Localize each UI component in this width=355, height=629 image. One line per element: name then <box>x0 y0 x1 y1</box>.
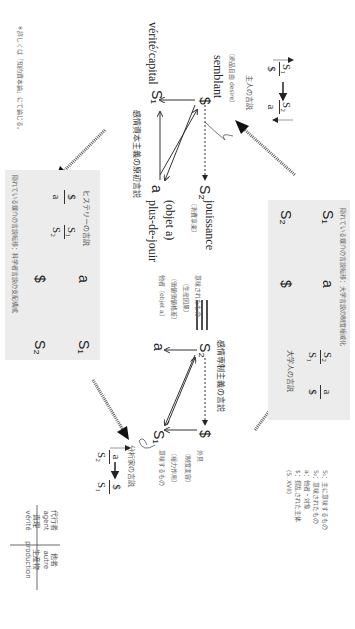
lacan-discourse-diagram: ＊詳しくは「知的資本論」にて論じる。 S₁$ S₂a 主人の言説 semblan… <box>0 0 355 629</box>
hysteric-schema-a: a <box>76 275 92 283</box>
agent-jp: 代行者 <box>50 510 58 531</box>
verite-capital-label: vérité/capital <box>145 22 160 85</box>
hysteric-s2: S₂ <box>51 227 63 237</box>
jouissance-label: jouissance <box>202 200 217 250</box>
university-s2: S₂ <box>322 352 334 362</box>
jouissance-note: （消費享楽） <box>190 200 199 236</box>
analyst-barred-s: $ <box>111 484 123 490</box>
master-s2: S₂ <box>281 102 293 112</box>
despotic-a: a <box>151 343 167 351</box>
other-label: 他者（objet a） <box>158 275 167 320</box>
symbol-notes: S₁：主に意味するもの S₂：意味されたもの a：他者・対象 $：撹乱された主体… <box>285 470 330 530</box>
university-s1: S₁ <box>307 352 319 362</box>
other-note: （価値価値格差） <box>170 275 179 323</box>
note-source: (S. XVII) <box>285 470 294 530</box>
note-barred-s: $：撹乱された主体 <box>294 470 303 530</box>
analyst-s1: S₁ <box>96 482 108 492</box>
autre-fr: autre <box>42 541 50 579</box>
hysteric-schema-s1: S₁ <box>76 340 92 354</box>
signified-note: （生産因果） <box>182 280 191 316</box>
university-schema-s2: S₂ <box>278 210 294 225</box>
production-jp: 生産物 <box>32 541 40 579</box>
hysteric-schema-barred-s: $ <box>32 275 48 283</box>
note-s1: S₁：主に意味するもの <box>321 470 330 530</box>
master-title: 主人の言説 <box>245 75 255 110</box>
capitalist-barred-s: $ <box>197 97 213 105</box>
signifier-label: 意味するもの <box>158 450 167 486</box>
university-schema-s1: S₁ <box>320 210 336 224</box>
capitalist-a: a <box>149 185 165 193</box>
capitalist-title: 感情資本主義の原初言説 <box>132 110 143 198</box>
analyst-a: a <box>111 455 123 460</box>
appearance-note: （制度変容） <box>184 450 193 486</box>
university-schema-barred-s: $ <box>278 280 294 288</box>
footnote: ＊詳しくは「知的資本論」にて論じる。 <box>16 25 25 133</box>
university-schema-a: a <box>320 280 336 288</box>
hysteric-barred-s: $ <box>66 194 78 200</box>
note-a: a：他者・対象 <box>303 470 312 530</box>
verite-jp: 真理 <box>32 510 40 531</box>
master-a: a <box>266 105 278 110</box>
despotic-title: 感情専制主義の言説 <box>216 340 227 412</box>
semblant-label: semblant <box>210 55 225 98</box>
hysteric-caption: 隠れている媒介の言説転移：科学者言説の支配構成 <box>11 175 20 313</box>
plus-de-jouir-label: plus-de-jouir <box>145 200 160 262</box>
capitalist-s2: S₂ <box>197 185 213 200</box>
despotic-barred-s: $ <box>197 430 213 438</box>
analyst-title: 分析家の言説 <box>127 445 137 487</box>
university-a: a <box>322 390 334 395</box>
hysteric-s1: S₁ <box>66 227 78 237</box>
capitalist-s1: S₁ <box>149 90 165 104</box>
analyst-s2: S₂ <box>96 452 108 462</box>
semblant-note: （商品自由 desire） <box>228 50 237 106</box>
hysteric-schema-s2: S₂ <box>32 340 48 355</box>
university-title: 大学人の言説 <box>286 350 296 392</box>
note-s2: S₂：意味されたもの <box>312 470 321 530</box>
power-note: （権力作用） <box>170 450 179 486</box>
despotic-s1: S₁ <box>151 430 167 444</box>
appearance-label: 外見 <box>196 450 205 462</box>
signified-label: 意味されたもの <box>194 275 203 317</box>
discourse-positions-table: 代行者agent 他者autre 真理vérité 生産物production <box>23 505 59 584</box>
autre-jp: 他者 <box>50 541 58 579</box>
production-fr: production <box>24 541 32 579</box>
objet-a-label: (objet a) <box>162 200 177 240</box>
university-barred-s: $ <box>307 389 319 395</box>
despotic-s2: S₂ <box>197 343 213 358</box>
master-s1: S₁ <box>281 64 293 74</box>
hysteric-title: ヒステリーの言説 <box>82 190 92 246</box>
hysteric-a: a <box>51 195 63 200</box>
agent-fr: agent <box>42 510 50 531</box>
hysteric-panel: $a S₁S₂ ヒステリーの言説 a S₁ $ S₂ 隠れている媒介の言説転移：… <box>5 170 100 360</box>
university-caption: 隠れている媒介の言説転移：大学言説の制度権威化 <box>339 208 348 346</box>
verite-fr: vérité <box>24 510 32 531</box>
master-barred-s: $ <box>266 66 278 72</box>
university-panel: 隠れている媒介の言説転移：大学言説の制度権威化 S₁ a S₂ $ S₂S₁ a… <box>268 200 350 420</box>
